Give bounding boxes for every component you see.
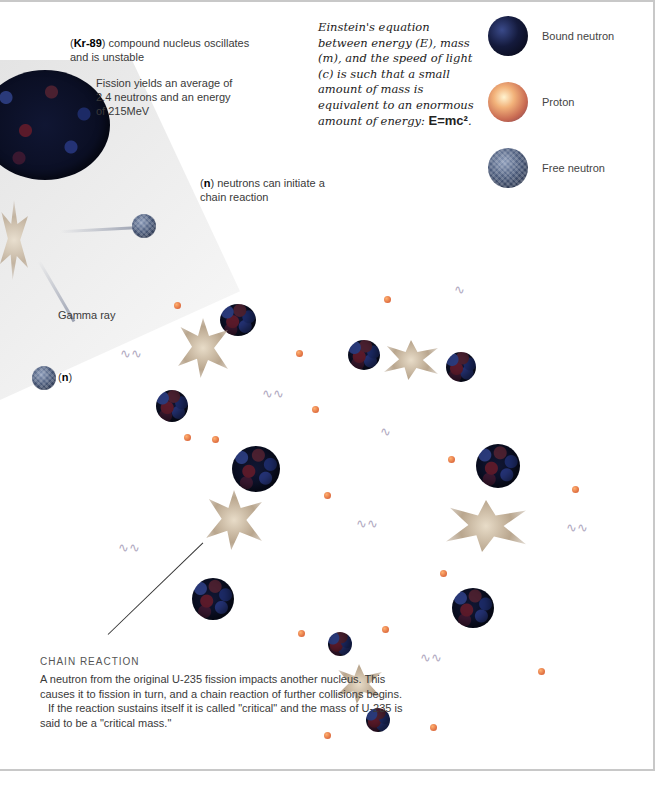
free-neutron-icon [488, 148, 528, 188]
neutron-dot [298, 630, 305, 637]
nucleus-cluster [192, 578, 234, 620]
chain-reaction-title: CHAIN REACTION [40, 656, 140, 667]
nucleus-cluster [452, 588, 494, 628]
nucleus-cluster [446, 352, 476, 382]
fission-fragment [384, 340, 438, 380]
legend-bound-neutron: Bound neutron [488, 16, 614, 56]
nucleus-cluster [156, 390, 188, 422]
gamma-squiggle: ∿ [454, 282, 465, 297]
free-neutron-left [32, 366, 56, 390]
gamma-squiggle: ∿∿ [118, 540, 140, 555]
bound-neutron-icon [488, 16, 528, 56]
proton-icon [488, 82, 528, 122]
neutron-dot [430, 724, 437, 731]
neutron-dot [384, 296, 391, 303]
neutron-dot [174, 302, 181, 309]
kr89-label: (Kr-89) compound nucleus oscillates and … [70, 36, 260, 64]
nucleus-cluster [232, 446, 280, 492]
neutron-dot [212, 436, 219, 443]
neutron-dot [448, 456, 455, 463]
fission-fragment [446, 500, 526, 552]
gamma-squiggle: ∿∿ [566, 520, 588, 535]
einstein-equation-note: Einstein's equation between energy (E), … [318, 20, 478, 130]
neutron-dot [296, 350, 303, 357]
neutron-dot [538, 668, 545, 675]
gamma-squiggle: ∿∿ [356, 516, 378, 531]
chain-reaction-arrow [108, 542, 204, 634]
frame-bottom-border [0, 769, 655, 771]
nucleus-cluster [476, 444, 520, 488]
gamma-squiggle: ∿∿ [420, 650, 442, 665]
chain-reaction-body: A neutron from the original U-235 fissio… [40, 672, 412, 730]
free-neutron-top [132, 214, 156, 238]
neutron-dot [184, 434, 191, 441]
chain-reaction-neutrons-label: (n) neutrons can initiate a chain reacti… [200, 176, 330, 204]
frame-top-border [0, 0, 655, 2]
legend-proton: Proton [488, 82, 574, 122]
neutron-dot [440, 570, 447, 577]
n-label: (n) [58, 370, 72, 384]
neutron-dot [572, 486, 579, 493]
nucleus-cluster [328, 632, 352, 656]
fission-yield-label: Fission yields an average of 2.4 neutron… [96, 76, 236, 118]
emc2-equation: E=mc² [429, 113, 468, 128]
legend-free-neutron: Free neutron [488, 148, 605, 188]
gamma-squiggle: ∿∿ [120, 346, 142, 361]
fission-fragment-center [206, 490, 262, 550]
gamma-squiggle: ∿∿ [262, 386, 284, 401]
neutron-dot [312, 406, 319, 413]
nucleus-cluster [348, 340, 380, 370]
fission-fragment [178, 318, 228, 378]
gamma-squiggle: ∿ [380, 424, 391, 439]
neutron-dot [382, 626, 389, 633]
neutron-dot [324, 732, 331, 739]
gamma-ray-label: Gamma ray [58, 308, 115, 322]
neutron-dot [324, 492, 331, 499]
